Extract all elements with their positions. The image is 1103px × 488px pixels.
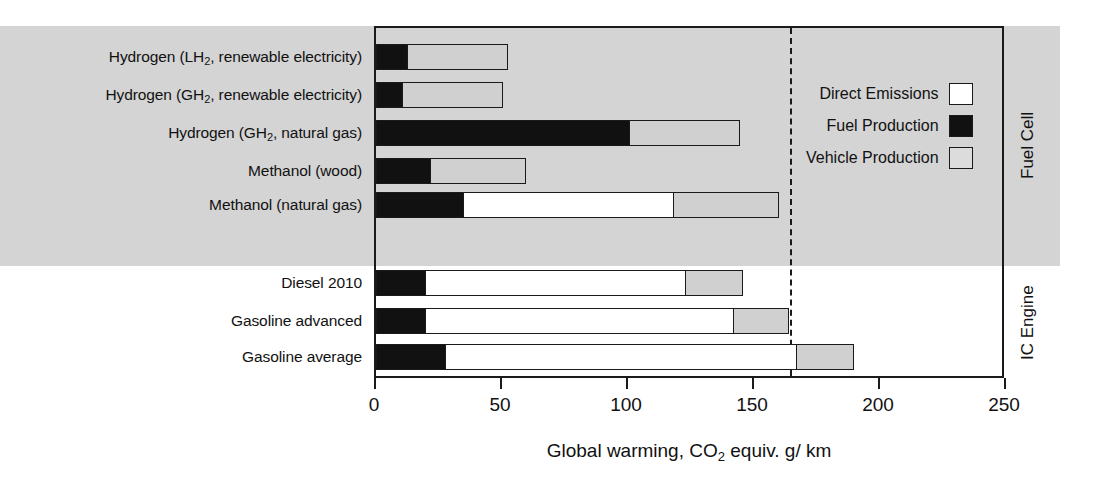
bar-segment-vehicle (685, 270, 743, 296)
bar-segment-direct (425, 270, 687, 296)
x-axis: 050100150200250 (374, 378, 1006, 379)
category-label-text: Methanol (natural gas) (209, 196, 362, 213)
category-label: Methanol (natural gas) (209, 196, 362, 214)
category-label: Diesel 2010 (281, 274, 362, 292)
category-label: Gasoline advanced (231, 312, 362, 330)
bar-segment-fuel (376, 120, 631, 146)
bar (376, 344, 854, 370)
bar-segment-vehicle (629, 120, 740, 146)
bar-segment-fuel (376, 82, 404, 108)
legend-item: Fuel Production (806, 110, 973, 142)
category-label-text: Hydrogen (GH (105, 86, 204, 103)
x-axis-tick-label: 200 (862, 394, 894, 416)
legend-item: Direct Emissions (806, 78, 973, 110)
x-axis-tick (752, 378, 754, 389)
legend-item-label: Vehicle Production (806, 149, 939, 167)
legend-swatch-fuel (949, 115, 973, 137)
bar-segment-fuel (376, 192, 464, 218)
group-label-fuel-cell: Fuel Cell (1018, 40, 1038, 250)
bar-segment-vehicle (796, 344, 854, 370)
x-axis-title-suffix: equiv. g/ km (725, 440, 831, 461)
x-axis-tick (878, 378, 880, 389)
bar-segment-fuel (376, 308, 426, 334)
category-label: Gasoline average (242, 348, 362, 366)
bar-segment-vehicle (407, 44, 508, 70)
bar-segment-fuel (376, 344, 447, 370)
bar-segment-fuel (376, 270, 426, 296)
bar (376, 44, 508, 70)
bar-segment-direct (445, 344, 798, 370)
chart-container: Hydrogen (LH2, renewable electricity)Hyd… (0, 0, 1103, 488)
category-label: Methanol (wood) (248, 162, 362, 180)
bar-segment-vehicle (733, 308, 788, 334)
x-axis-tick-label: 0 (369, 394, 380, 416)
x-axis-tick-label: 250 (988, 394, 1020, 416)
legend-item-label: Fuel Production (826, 117, 938, 135)
bar-segment-vehicle (430, 158, 526, 184)
legend-swatch-direct (949, 83, 973, 105)
legend-swatch-vehicle (949, 147, 973, 169)
bar (376, 158, 526, 184)
bar-segment-direct (463, 192, 675, 218)
x-axis-tick (374, 378, 376, 389)
bar-segment-fuel (376, 44, 409, 70)
x-axis-title: Global warming, CO2 equiv. g/ km (374, 440, 1004, 464)
category-label: Hydrogen (GH2, natural gas) (168, 124, 362, 143)
bar (376, 270, 743, 296)
bar (376, 120, 740, 146)
bar-segment-direct (425, 308, 735, 334)
x-axis-title-prefix: Global warming, CO (547, 440, 718, 461)
bar (376, 82, 503, 108)
x-axis-tick (626, 378, 628, 389)
x-axis-tick-label: 50 (489, 394, 510, 416)
bar-segment-vehicle (402, 82, 503, 108)
category-label-text: Gasoline average (242, 348, 362, 365)
legend-item: Vehicle Production (806, 142, 973, 174)
x-axis-tick (500, 378, 502, 389)
category-label-suffix: , renewable electricity) (210, 48, 362, 65)
bar (376, 308, 789, 334)
bar-segment-vehicle (673, 192, 779, 218)
x-axis-tick-label: 100 (610, 394, 642, 416)
x-axis-tick-label: 150 (736, 394, 768, 416)
chart-legend: Direct EmissionsFuel ProductionVehicle P… (806, 78, 973, 174)
category-label-suffix: , natural gas) (273, 124, 362, 141)
bar-segment-fuel (376, 158, 431, 184)
group-label-ic-engine: IC Engine (1018, 268, 1038, 378)
category-label-text: Diesel 2010 (281, 274, 362, 291)
category-label-suffix: , renewable electricity) (210, 86, 362, 103)
category-label-text: Hydrogen (LH (109, 48, 204, 65)
category-label: Hydrogen (GH2, renewable electricity) (105, 86, 362, 105)
bar (376, 192, 779, 218)
category-label-text: Hydrogen (GH (168, 124, 267, 141)
category-label-column: Hydrogen (LH2, renewable electricity)Hyd… (0, 0, 368, 488)
x-axis-title-sub: 2 (718, 449, 725, 464)
category-label-text: Gasoline advanced (231, 312, 362, 329)
category-label-text: Methanol (wood) (248, 162, 362, 179)
reference-line (790, 28, 792, 376)
legend-item-label: Direct Emissions (819, 85, 938, 103)
category-label: Hydrogen (LH2, renewable electricity) (109, 48, 362, 67)
x-axis-tick (1004, 378, 1006, 389)
